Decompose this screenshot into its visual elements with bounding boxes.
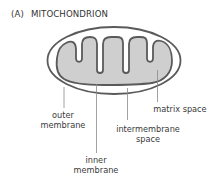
label-outer-membrane-line1: outer	[38, 110, 88, 120]
label-matrix-space: matrix space	[150, 104, 210, 114]
label-matrix-space-line1: matrix space	[150, 104, 210, 114]
label-intermembrane-space-line1: intermembrane	[110, 124, 186, 134]
label-inner-membrane-line1: inner	[70, 155, 122, 165]
label-inner-membrane: inner membrane	[70, 155, 122, 175]
label-inner-membrane-line2: membrane	[70, 165, 122, 175]
label-intermembrane-space: intermembrane space	[110, 124, 186, 144]
label-intermembrane-space-line2: space	[110, 134, 186, 144]
label-outer-membrane-line2: membrane	[38, 120, 88, 130]
inner-membrane-shape	[57, 37, 172, 85]
label-outer-membrane: outer membrane	[38, 110, 88, 130]
